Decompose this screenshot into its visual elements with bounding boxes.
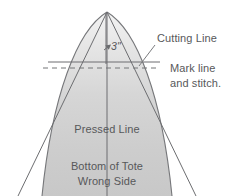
diagram-canvas: 3" Cutting Line Mark line and stitch. Pr… — [0, 0, 231, 196]
mark-line-label-1: Mark line — [170, 62, 216, 74]
dimension-label: 3" — [111, 40, 122, 52]
bottom-of-tote-label: Bottom of Tote — [71, 160, 143, 172]
pressed-line-label: Pressed Line — [74, 123, 139, 135]
cutting-line-leader — [139, 45, 155, 66]
tote-corner-diagram: 3" Cutting Line Mark line and stitch. Pr… — [0, 0, 231, 196]
mark-line-label-2: and stitch. — [170, 77, 221, 89]
cutting-line-label: Cutting Line — [157, 32, 217, 44]
wrong-side-label: Wrong Side — [78, 175, 136, 187]
